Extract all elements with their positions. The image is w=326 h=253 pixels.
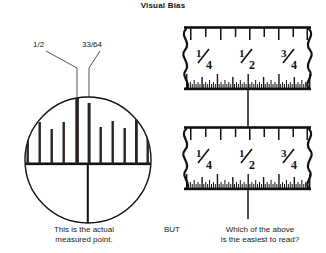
ruler-fine-tick	[284, 184, 285, 188]
ruler-fine-tick	[267, 82, 268, 88]
ruler-fine-tick	[198, 82, 199, 88]
magnified-pointer-line	[87, 164, 89, 224]
ruler-top-edge	[184, 26, 311, 29]
svg-text:2: 2	[249, 58, 255, 72]
ruler-fine-tick	[211, 184, 212, 188]
ruler-fine-tick	[301, 180, 302, 188]
ruler-fine-tick	[232, 177, 233, 188]
ruler-fine-tick	[292, 184, 293, 188]
caption-right-line2: is the easiest to read?	[196, 235, 324, 245]
ruler-fine-tick	[203, 184, 204, 188]
ruler-fine-tick	[226, 84, 227, 88]
ruler-fine-tick	[296, 184, 297, 188]
ruler-fine-tick	[221, 182, 222, 188]
ruler-fine-tick	[226, 184, 227, 188]
ruler-fine-tick	[263, 77, 264, 88]
ruler-fine-tick	[261, 184, 262, 188]
ruler-fine-tick	[207, 84, 208, 88]
caption-right: Which of the above is the easiest to rea…	[196, 225, 324, 245]
ruler-fine-tick	[224, 180, 225, 188]
ruler-fine-tick	[223, 184, 224, 188]
ruler-fine-tick	[257, 184, 258, 188]
illustration-vector-layer: 1 4 1 2 3 4	[0, 0, 326, 253]
ruler-fine-tick	[196, 84, 197, 88]
ruler-fine-tick	[234, 84, 235, 88]
ruler-fine-tick	[249, 184, 250, 188]
ruler-fine-tick	[282, 82, 283, 88]
ruler-fine-tick	[248, 74, 249, 88]
callout-leader-half	[46, 51, 77, 68]
ruler-fine-tick	[253, 84, 254, 88]
ruler-fine-tick	[249, 84, 250, 88]
ruler-fine-tick	[219, 84, 220, 88]
ruler-fine-tick	[259, 82, 260, 88]
svg-text:3: 3	[281, 47, 287, 59]
ruler-fine-tick	[272, 184, 273, 188]
ruler-fine-tick	[199, 84, 200, 88]
ruler-fine-tick	[215, 184, 216, 188]
caption-left-line2: measured point.	[14, 235, 154, 245]
ruler-fine-tick	[223, 84, 224, 88]
ruler-fine-tick	[288, 84, 289, 88]
caption-left-line1: This is the actual	[14, 225, 154, 235]
ruler-fine-tick	[280, 184, 281, 188]
ruler-fine-tick	[248, 174, 249, 188]
ruler-fine-tick	[209, 80, 210, 88]
ruler-fine-tick	[228, 82, 229, 88]
ruler-fine-tick	[274, 82, 275, 88]
ruler-fine-tick	[292, 84, 293, 88]
ruler-fine-tick	[192, 184, 193, 188]
ruler-fine-tick	[198, 182, 199, 188]
ruler-fine-tick	[242, 84, 243, 88]
ruler-fine-tick	[255, 180, 256, 188]
ruler-fine-tick	[207, 184, 208, 188]
ruler-fine-tick	[244, 82, 245, 88]
callout-leader-3364	[89, 51, 100, 68]
ruler-fine-tick	[305, 182, 306, 188]
ruler-fine-tick	[240, 80, 241, 88]
svg-text:4: 4	[206, 158, 212, 172]
ruler-fine-tick	[265, 84, 266, 88]
ruler-fine-tick	[236, 82, 237, 88]
ruler-fine-tick	[267, 182, 268, 188]
ruler-fine-tick	[274, 182, 275, 188]
ruler-fine-tick	[209, 180, 210, 188]
ruler-fine-tick	[215, 84, 216, 88]
ruler-fine-tick	[192, 84, 193, 88]
callout-label-3364: 33/64	[82, 40, 102, 49]
ruler-fine-tick	[211, 84, 212, 88]
figure-canvas: Visual Bias	[0, 0, 326, 253]
ruler-fine-tick	[269, 84, 270, 88]
ruler-fine-tick	[201, 77, 202, 88]
ruler-fine-tick	[290, 82, 291, 88]
ruler-fine-tick	[236, 182, 237, 188]
ruler-fine-tick	[259, 182, 260, 188]
ruler-fine-tick	[190, 82, 191, 88]
ruler-fine-tick	[303, 184, 304, 188]
ruler-fine-tick	[296, 84, 297, 88]
ruler-fine-tick	[251, 82, 252, 88]
ruler-bottom-edge	[184, 126, 311, 129]
ruler-fine-tick	[265, 184, 266, 188]
ruler-fine-tick	[238, 184, 239, 188]
ruler-fine-tick	[251, 182, 252, 188]
ruler-fine-tick	[263, 177, 264, 188]
ruler-fine-tick	[219, 184, 220, 188]
ruler-fine-tick	[253, 184, 254, 188]
magnifier-circle-group	[16, 97, 161, 224]
ruler-fine-tick	[271, 180, 272, 188]
ruler-fine-tick	[299, 84, 300, 88]
ruler-fine-tick	[238, 84, 239, 88]
callout-label-half: 1/2	[33, 40, 44, 49]
ruler-fine-tick	[194, 80, 195, 88]
caption-conjunction: BUT	[150, 225, 194, 235]
ruler-fine-tick	[242, 184, 243, 188]
svg-text:1: 1	[239, 47, 245, 59]
ruler-fine-tick	[203, 84, 204, 88]
ruler-fine-tick	[294, 77, 295, 88]
ruler-fine-tick	[230, 184, 231, 188]
ruler-fine-tick	[244, 182, 245, 188]
ruler-fine-tick	[199, 184, 200, 188]
ruler-fine-tick	[201, 177, 202, 188]
svg-text:4: 4	[206, 58, 212, 72]
